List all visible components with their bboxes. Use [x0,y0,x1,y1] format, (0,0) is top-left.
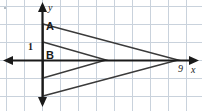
triangle-b-label: B [46,50,54,61]
coordinate-plane-figure: y x 9 1 A B [0,0,202,111]
x-vertex-value-label: 9 [178,64,183,74]
graph-canvas [0,0,202,111]
y-axis-label: y [48,3,52,13]
grid-lines [0,0,202,111]
triangle-a-label: A [46,21,54,32]
unit-label: 1 [28,42,33,52]
x-axis-label: x [191,65,195,75]
